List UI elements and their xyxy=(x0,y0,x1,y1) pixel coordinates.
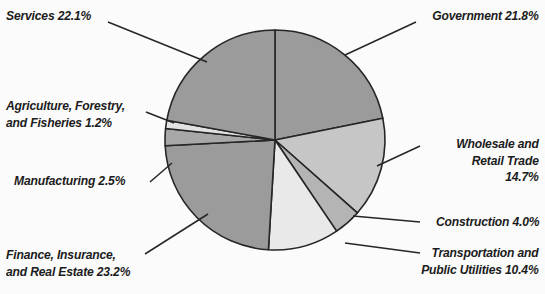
label-government: Government 21.8% xyxy=(433,8,539,25)
leader-line-transportation xyxy=(345,243,420,253)
label-manufacturing: Manufacturing 2.5% xyxy=(14,173,125,190)
label-finance: Finance, Insurance, and Real Estate 23.2… xyxy=(6,247,130,280)
label-transportation: Transportation and Public Utilities 10.4… xyxy=(422,245,539,278)
pie-slices-group xyxy=(165,30,385,250)
leader-line-services xyxy=(108,22,207,62)
pie-slice-finance xyxy=(165,140,275,250)
leader-line-construction xyxy=(353,216,420,222)
leader-line-government xyxy=(345,22,416,55)
label-construction: Construction 4.0% xyxy=(436,214,539,231)
label-wholesale: Wholesale and Retail Trade 14.7% xyxy=(456,136,539,186)
leader-line-finance xyxy=(145,214,208,254)
leader-line-manufacturing xyxy=(150,163,172,182)
pie-chart-figure: Services 22.1% Agriculture, Forestry, an… xyxy=(0,0,545,294)
label-agriculture: Agriculture, Forestry, and Fisheries 1.2… xyxy=(6,98,125,131)
label-services: Services 22.1% xyxy=(6,8,91,25)
pie-slice-services xyxy=(167,30,275,140)
